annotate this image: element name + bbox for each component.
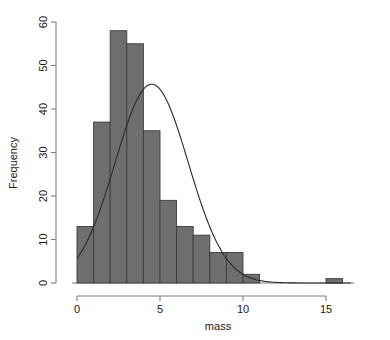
chart-canvas: 051015 0102030405060 mass Frequency — [0, 0, 390, 340]
y-axis: 0102030405060 — [37, 16, 56, 286]
y-axis-tick-label: 20 — [37, 190, 49, 202]
histogram-bar — [177, 226, 194, 283]
x-axis-tick-label: 15 — [320, 303, 332, 315]
histogram-bar — [326, 279, 343, 283]
x-axis-title: mass — [205, 320, 232, 332]
histogram-bar — [193, 235, 210, 283]
y-axis-tick-label: 60 — [37, 16, 49, 28]
y-axis-tick-label: 50 — [37, 59, 49, 71]
histogram-bar — [94, 122, 111, 283]
histogram-bar — [110, 31, 127, 283]
histogram-bar — [143, 131, 160, 283]
x-axis-tick-label: 0 — [74, 303, 80, 315]
x-axis: 051015 — [74, 296, 332, 315]
x-axis-tick-label: 5 — [157, 303, 163, 315]
histogram-bar — [210, 253, 227, 283]
y-axis-title: Frequency — [7, 137, 19, 189]
x-axis-tick-label: 10 — [237, 303, 249, 315]
y-axis-tick-label: 10 — [37, 233, 49, 245]
histogram-plot: 051015 0102030405060 mass Frequency — [0, 0, 390, 340]
histogram-bar — [160, 200, 177, 283]
y-axis-tick-label: 40 — [37, 103, 49, 115]
histogram-bar — [127, 44, 144, 283]
y-axis-tick-label: 30 — [37, 146, 49, 158]
y-axis-tick-label: 0 — [37, 280, 49, 286]
